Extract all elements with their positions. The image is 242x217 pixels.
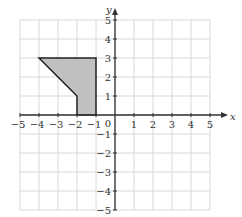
x-tick-label: −2 xyxy=(68,119,83,130)
y-tick-label: 4 xyxy=(105,34,111,45)
origin-label: 0 xyxy=(105,118,111,129)
y-tick-label: −1 xyxy=(96,129,111,140)
x-tick-label: −5 xyxy=(11,119,26,130)
y-tick-label: 5 xyxy=(105,15,111,26)
x-tick-label: 3 xyxy=(169,119,175,130)
coordinate-grid: −5−4−3−2−11234554321−1−2−3−4−50xy xyxy=(0,0,242,217)
y-axis-arrow-icon xyxy=(112,8,118,15)
x-tick-label: 5 xyxy=(207,119,213,130)
y-tick-label: −3 xyxy=(96,167,111,178)
x-axis-arrow-icon xyxy=(221,112,228,118)
y-tick-label: −5 xyxy=(96,205,111,216)
x-axis-label: x xyxy=(230,111,236,122)
y-tick-label: 3 xyxy=(105,53,111,64)
x-tick-label: −3 xyxy=(49,119,64,130)
y-tick-label: 1 xyxy=(105,91,111,102)
x-tick-label: 2 xyxy=(150,119,156,130)
y-tick-label: −2 xyxy=(96,148,111,159)
y-tick-label: −4 xyxy=(96,186,111,197)
y-axis-label: y xyxy=(105,4,112,15)
y-tick-label: 2 xyxy=(105,72,111,83)
shaded-polygon xyxy=(39,58,96,115)
x-tick-label: 4 xyxy=(188,119,194,130)
x-tick-label: −4 xyxy=(30,119,45,130)
x-tick-label: 1 xyxy=(131,119,137,130)
